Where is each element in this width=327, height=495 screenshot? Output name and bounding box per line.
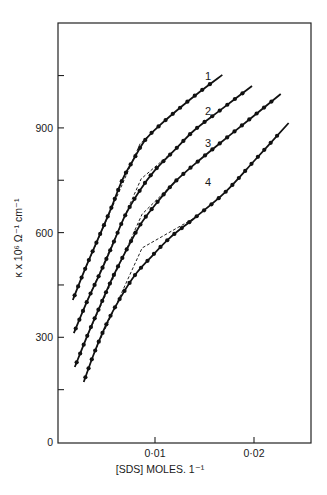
data-point (144, 215, 148, 219)
data-point (116, 264, 120, 268)
data-point (262, 148, 266, 152)
data-point (75, 360, 79, 364)
data-point (120, 256, 124, 260)
data-point (171, 112, 175, 116)
data-point (181, 172, 185, 176)
curve-label-4: 4 (205, 176, 211, 188)
data-point (188, 166, 192, 170)
data-point (112, 273, 116, 277)
data-point (139, 266, 143, 270)
data-point (209, 202, 213, 206)
data-point (174, 178, 178, 182)
data-point (116, 188, 120, 192)
data-point (108, 281, 112, 285)
data-point (247, 117, 251, 121)
data-point (104, 290, 108, 294)
data-point (162, 192, 166, 196)
data-point (76, 284, 80, 288)
data-point (74, 326, 78, 330)
data-point (185, 100, 189, 104)
data-point (129, 239, 133, 243)
data-point (138, 189, 142, 193)
curve-1 (73, 75, 222, 300)
data-point (124, 171, 128, 175)
dashed-extrapolation-2 (88, 150, 175, 300)
x-axis-ticks: 0·010·02 (144, 437, 264, 459)
data-point (97, 274, 101, 278)
data-point (106, 214, 110, 218)
data-point (240, 123, 244, 127)
data-point (225, 103, 229, 107)
curve-4 (84, 123, 289, 382)
data-point (187, 220, 191, 224)
y-tick-label: 600 (35, 227, 53, 239)
data-point (86, 366, 90, 370)
data-point (104, 322, 108, 326)
data-point (152, 252, 156, 256)
x-axis-title: [SDS] MOLES. 1⁻¹ (116, 463, 205, 475)
data-point (113, 197, 117, 201)
data-point (172, 232, 176, 236)
data-point (123, 213, 127, 217)
data-point (85, 334, 89, 338)
data-point (82, 343, 86, 347)
data-point (217, 196, 221, 200)
data-point (168, 152, 172, 156)
extrapolation-dashed-lines (85, 125, 195, 352)
dashed-extrapolation-1 (85, 125, 160, 270)
data-point (120, 179, 124, 183)
y-tick-label: 900 (35, 122, 53, 134)
curve-label-3: 3 (205, 137, 211, 149)
data-point (133, 154, 137, 158)
data-point (97, 340, 101, 344)
data-point (113, 305, 117, 309)
data-point (129, 162, 133, 166)
data-point (109, 206, 113, 210)
data-point (88, 291, 92, 295)
x-tick-label: 0·02 (243, 447, 264, 459)
data-point (98, 232, 102, 236)
data-point (89, 325, 93, 329)
y-tick-label: 300 (35, 331, 53, 343)
data-point (175, 146, 179, 150)
data-point (158, 245, 162, 249)
data-point (78, 351, 82, 355)
data-point (232, 129, 236, 133)
data-point (85, 300, 89, 304)
data-point (262, 105, 266, 109)
data-point (225, 135, 229, 139)
data-point (237, 176, 241, 180)
x-tick-label: 0·01 (144, 447, 165, 459)
data-point (196, 159, 200, 163)
data-point (155, 166, 159, 170)
data-point (233, 97, 237, 101)
plot-frame (58, 23, 311, 443)
data-point (269, 99, 273, 103)
data-point (230, 183, 234, 187)
data-point (168, 185, 172, 189)
data-point (91, 249, 95, 253)
data-point (133, 231, 137, 235)
data-point (83, 267, 87, 271)
curve-label-2: 2 (205, 105, 211, 117)
data-point (104, 257, 108, 261)
data-point (149, 131, 153, 135)
data-point (156, 124, 160, 128)
data-point (180, 226, 184, 230)
data-point (218, 108, 222, 112)
data-point (77, 318, 81, 322)
data-point (100, 266, 104, 270)
data-point (275, 134, 279, 138)
data-point (200, 88, 204, 92)
data-point (100, 331, 104, 335)
data-point (112, 239, 116, 243)
y-axis-title: κ x 10⁶ Ω⁻¹ cm⁻¹ (12, 198, 24, 278)
data-point (143, 181, 147, 185)
data-point (181, 139, 185, 143)
data-point (80, 276, 84, 280)
data-point (143, 138, 147, 142)
data-point (73, 293, 77, 297)
data-point (165, 238, 169, 242)
data-point (145, 259, 149, 263)
data-point (161, 159, 165, 163)
